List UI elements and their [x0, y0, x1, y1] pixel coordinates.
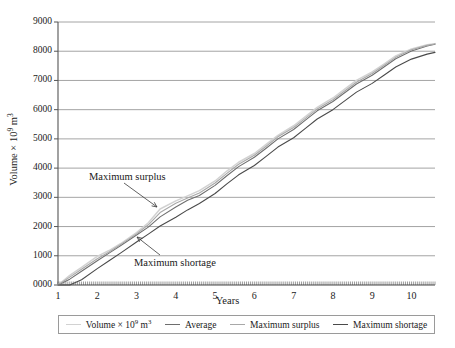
y-tick-label: 3000 — [18, 192, 52, 202]
axis-lines-group — [58, 22, 435, 285]
x-axis-title: Years — [0, 296, 455, 307]
y-axis-title: Volume × 109 m3 — [7, 90, 20, 210]
legend-item-label: Maximum surplus — [250, 320, 319, 330]
legend-item-0[interactable]: Volume × 109 m3 — [66, 318, 152, 330]
y-axis-title-main: Volume × 10 — [8, 132, 19, 186]
y-tick-label: 5000 — [18, 134, 52, 144]
series-lines-group — [58, 44, 435, 285]
legend-swatch-icon — [333, 324, 348, 325]
y-tick-label: 9000 — [18, 17, 52, 27]
annotation-maximum-shortage: Maximum shortage — [134, 258, 216, 269]
y-axis-title-exponent: 9 — [6, 128, 15, 132]
legend-item-label: Average — [185, 320, 216, 330]
legend-item-3[interactable]: Maximum shortage — [333, 320, 427, 330]
y-tick-label: 6000 — [18, 105, 52, 115]
y-tick-label: 2000 — [18, 222, 52, 232]
legend-swatch-icon — [165, 324, 180, 325]
legend-item-label: Maximum shortage — [353, 320, 427, 330]
y-tick-label: 0000 — [18, 280, 52, 290]
arrow-maximum-surplus — [124, 183, 157, 207]
legend-swatch-icon — [66, 324, 81, 325]
legend-item-2[interactable]: Maximum surplus — [230, 320, 319, 330]
y-tick-label: 8000 — [18, 46, 52, 56]
chart-figure: 9000800070006000500040003000200010000000… — [0, 0, 455, 348]
gridlines-group — [58, 22, 435, 285]
legend-item-label: Volume × 109 m3 — [86, 318, 152, 330]
major-ticks-group — [54, 22, 58, 285]
y-tick-label: 7000 — [18, 75, 52, 85]
y-axis-title-unit-exponent: 3 — [6, 113, 15, 117]
chart-legend: Volume × 109 m3AverageMaximum surplusMax… — [58, 315, 435, 334]
y-tick-label: 1000 — [18, 251, 52, 261]
legend-swatch-icon — [230, 324, 245, 325]
arrow-maximum-shortage — [137, 237, 160, 255]
annotation-maximum-surplus: Maximum surplus — [89, 172, 166, 183]
y-axis-title-unit: m — [8, 117, 19, 128]
legend-item-1[interactable]: Average — [165, 320, 216, 330]
y-tick-label: 4000 — [18, 163, 52, 173]
